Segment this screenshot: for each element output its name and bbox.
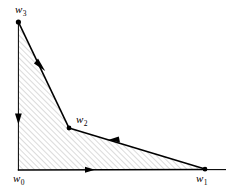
vertex-label-w1-base: w: [196, 172, 203, 184]
hatched-region: [18, 22, 205, 170]
vertex-dot-w3: [16, 19, 21, 24]
vertex-label-w0-base: w: [13, 172, 20, 184]
vertex-label-w3-base: w: [15, 3, 22, 15]
vertex-dot-w2: [67, 126, 72, 131]
vertex-label-w0-sub: 0: [21, 178, 25, 187]
polygon-diagram-svg: [0, 0, 229, 196]
vertex-label-w1: w1: [196, 173, 207, 184]
vertex-label-w3: w3: [15, 4, 26, 15]
vertex-label-w2: w2: [76, 114, 87, 125]
vertex-label-w0: w0: [13, 173, 24, 184]
vertex-label-w1-sub: 1: [204, 178, 208, 187]
vertex-label-w2-sub: 2: [84, 119, 88, 128]
vertex-label-w3-sub: 3: [23, 9, 27, 18]
edge-w0-w1: [18, 169, 206, 170]
vertex-label-w2-base: w: [76, 113, 83, 125]
vertex-dot-w1: [203, 167, 208, 172]
figure-canvas: w3 w2 w0 w1: [0, 0, 229, 196]
